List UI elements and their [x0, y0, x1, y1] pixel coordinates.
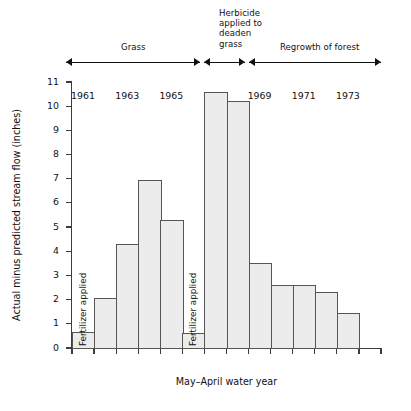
x-axis-tick-label: 1965: [154, 90, 188, 101]
bar: [337, 313, 360, 349]
arrowhead-right-icon: [239, 58, 245, 66]
y-axis-tick: [66, 323, 72, 324]
y-axis-tick: [66, 251, 72, 252]
y-axis-title-wrap: Actual minus predicted stream flow (inch…: [8, 90, 24, 340]
y-axis-tick: [66, 154, 72, 155]
y-axis-tick: [66, 81, 72, 82]
bar: [160, 220, 183, 349]
annotation-fertilizer-2: Fertilizer applied: [188, 273, 198, 346]
arrowhead-right-icon: [375, 58, 381, 66]
y-axis-tick-label: 8: [41, 148, 59, 159]
x-axis-tick-label: 1973: [331, 90, 365, 101]
y-axis-tick: [66, 275, 72, 276]
annotation-arrow-grass: [66, 58, 200, 67]
y-axis-tick: [66, 299, 72, 300]
bar: [227, 101, 250, 349]
arrow-shaft: [249, 62, 381, 63]
annotation-label-herbicide: Herbicide applied to deaden grass: [219, 8, 277, 49]
bar: [271, 285, 294, 349]
bar: [94, 298, 117, 349]
y-axis-tick-label: 10: [41, 100, 59, 111]
y-axis-tick-label: 3: [41, 269, 59, 280]
y-axis-tick-label: 1: [41, 317, 59, 328]
bar: [116, 244, 139, 349]
stream-flow-bar-chart: Grass Herbicide applied to deaden grass …: [0, 0, 411, 411]
annotation-arrow-herbicide: [204, 58, 244, 67]
annotation-arrow-regrowth: [249, 58, 381, 67]
y-axis-tick-label: 6: [41, 196, 59, 207]
bar: [249, 263, 272, 349]
arrowhead-right-icon: [194, 58, 200, 66]
annotation-label-regrowth: Regrowth of forest: [280, 42, 390, 52]
y-axis-tick: [66, 130, 72, 131]
x-axis-tick-label: 1961: [66, 90, 100, 101]
x-axis-tick-label: 1963: [110, 90, 144, 101]
bar: [315, 292, 338, 349]
y-axis-title: Actual minus predicted stream flow (inch…: [11, 109, 22, 321]
y-axis-tick-label: 5: [41, 221, 59, 232]
y-axis-tick-label: 7: [41, 172, 59, 183]
y-axis-tick: [66, 226, 72, 227]
bar: [293, 285, 316, 349]
annotation-label-grass: Grass: [93, 42, 173, 52]
y-axis-tick-label: 0: [41, 342, 59, 353]
y-axis-tick: [66, 106, 72, 107]
y-axis-tick-label: 4: [41, 245, 59, 256]
x-axis-title: May–April water year: [72, 376, 381, 387]
x-axis-tick-label: 1971: [287, 90, 321, 101]
y-axis-tick-label: 2: [41, 293, 59, 304]
y-axis-tick-label: 11: [41, 76, 59, 87]
y-axis-tick: [66, 202, 72, 203]
y-axis-tick-label: 9: [41, 124, 59, 135]
bar: [138, 180, 161, 349]
bar: [204, 92, 227, 350]
annotation-fertilizer-1: Fertilizer applied: [78, 273, 88, 346]
arrow-shaft: [66, 62, 200, 63]
plot-area: 0123456789101119611963196519671969197119…: [72, 82, 381, 348]
x-axis-tick: [380, 348, 381, 354]
x-axis-tick-label: 1969: [243, 90, 277, 101]
y-axis-tick: [66, 178, 72, 179]
